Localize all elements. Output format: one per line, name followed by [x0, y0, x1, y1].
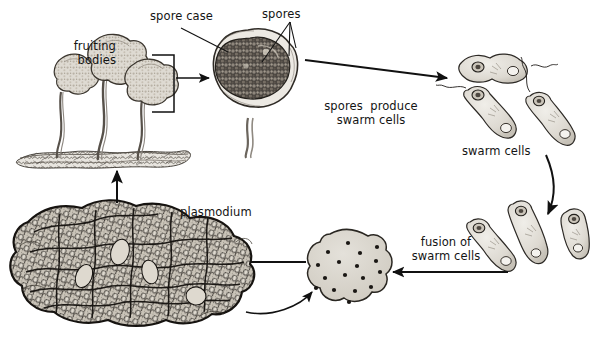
- arrow-plasmodium-to-zygote-curve: [246, 292, 312, 314]
- swarm-cell: [459, 54, 558, 83]
- swarm-cell: [436, 85, 516, 138]
- label-spores-produce-swarm-cells: spores produce swarm cells: [306, 100, 436, 127]
- spore-case-illustration: [213, 29, 297, 158]
- label-fruiting-bodies: fruiting bodies: [34, 40, 116, 67]
- label-spores: spores: [262, 8, 310, 22]
- label-fusion-of-swarm-cells: fusion of swarm cells: [398, 236, 494, 263]
- arrow-spore-case-to-swarm-cells: [305, 60, 447, 78]
- label-swarm-cells: swarm cells: [462, 145, 544, 159]
- sporangium-stalk-center: [98, 78, 108, 160]
- slime-mold-lifecycle-diagram: fruiting bodies spore case spores spores…: [0, 0, 604, 346]
- sporangium-head-right: [125, 59, 178, 105]
- arrow-swarm-cells-to-fusion: [546, 155, 554, 214]
- soil-bed: [16, 151, 190, 168]
- label-plasmodium: plasmodium: [180, 206, 272, 220]
- zygote-blob-illustration: [308, 230, 392, 305]
- swarm-cell: [561, 209, 589, 259]
- swarm-cells-illustration: [436, 54, 575, 145]
- sporangium-stalk-right: [138, 100, 145, 160]
- label-spore-case: spore case: [150, 10, 228, 24]
- swarm-cell: [508, 201, 548, 264]
- leader-spore-case: [181, 28, 228, 52]
- swarm-cell: [521, 57, 575, 145]
- sporangium-stalk-left: [57, 92, 65, 158]
